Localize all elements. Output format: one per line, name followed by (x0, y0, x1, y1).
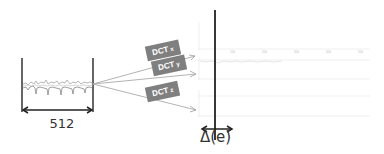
tick-1: 100 (230, 50, 235, 54)
dct-x-label: DCT (151, 45, 169, 57)
dct-z-label: DCT (151, 86, 169, 98)
plot-panels (198, 22, 370, 117)
dct-x-sub: x (170, 46, 175, 53)
dct-y-label: DCT (157, 60, 175, 72)
signal-trace-3 (23, 85, 93, 86)
tick-3: 300 (294, 50, 299, 54)
arrow-dct-y (93, 74, 196, 84)
delta-label: Δ(e) (200, 128, 231, 146)
signal-trace-1 (23, 80, 93, 85)
dct-y-sub: y (176, 61, 181, 68)
signal-trace-2 (23, 86, 93, 95)
dct-z-sub: z (170, 87, 174, 93)
tick-5: 500 (358, 50, 363, 54)
faint-trace (200, 61, 282, 63)
width-label: 512 (42, 116, 82, 131)
tick-4: 400 (326, 50, 331, 54)
tick-2: 200 (262, 50, 267, 54)
